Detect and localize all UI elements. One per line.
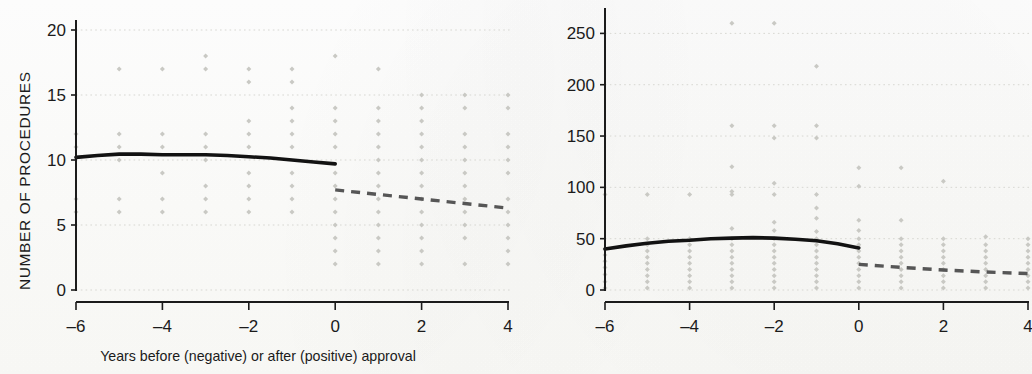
scatter-point bbox=[899, 248, 904, 253]
scatter-point bbox=[729, 248, 734, 253]
x-tick-label: 4 bbox=[1023, 317, 1032, 336]
scatter-point bbox=[983, 261, 988, 266]
scatter-point bbox=[899, 218, 904, 223]
scatter-point bbox=[462, 145, 467, 150]
scatter-point bbox=[772, 181, 777, 186]
scatter-point bbox=[203, 54, 208, 59]
x-tick-label: –4 bbox=[680, 317, 699, 336]
x-tick-label: –6 bbox=[596, 317, 615, 336]
y-tick-label: 150 bbox=[567, 127, 595, 146]
y-tick-label: 200 bbox=[567, 76, 595, 95]
x-tick-label: –4 bbox=[153, 317, 172, 336]
scatter-point bbox=[772, 136, 777, 141]
scatter-point bbox=[814, 285, 819, 290]
scatter-point bbox=[376, 210, 381, 215]
scatter-point bbox=[941, 279, 946, 284]
y-tick-label: 20 bbox=[47, 21, 66, 40]
scatter-point bbox=[687, 192, 692, 197]
scatter-point bbox=[645, 261, 650, 266]
scatter-point bbox=[419, 210, 424, 215]
scatter-point bbox=[772, 285, 777, 290]
scatter-point bbox=[645, 279, 650, 284]
scatter-point bbox=[290, 197, 295, 202]
scatter-point bbox=[419, 93, 424, 98]
plot-area-right: 050100150200250–6–4–2024 bbox=[516, 0, 1032, 340]
scatter-point bbox=[506, 249, 511, 254]
scatter-point bbox=[246, 132, 251, 137]
two-panel-figure: NUMBER OF PROCEDURES 05101520–6–4–2024 Y… bbox=[0, 0, 1032, 374]
x-tick-label: 0 bbox=[854, 317, 863, 336]
scatter-point bbox=[376, 262, 381, 267]
scatter-point bbox=[941, 242, 946, 247]
scatter-point bbox=[419, 132, 424, 137]
scatter-point bbox=[506, 145, 511, 150]
scatter-point bbox=[856, 228, 861, 233]
scatter-point bbox=[814, 216, 819, 221]
scatter-point bbox=[506, 262, 511, 267]
scatter-point bbox=[856, 165, 861, 170]
scatter-point bbox=[729, 226, 734, 231]
scatter-point bbox=[333, 249, 338, 254]
scatter-point bbox=[246, 80, 251, 85]
x-tick-label: 2 bbox=[417, 317, 426, 336]
scatter-point bbox=[856, 236, 861, 241]
scatter-point bbox=[899, 255, 904, 260]
scatter-point bbox=[117, 132, 122, 137]
scatter-point bbox=[645, 273, 650, 278]
scatter-point bbox=[772, 242, 777, 247]
scatter-point bbox=[419, 171, 424, 176]
scatter-point bbox=[506, 132, 511, 137]
scatter-point bbox=[462, 184, 467, 189]
scatter-point bbox=[814, 192, 819, 197]
y-tick-label: 5 bbox=[57, 216, 66, 235]
scatter-point bbox=[160, 197, 165, 202]
scatter-point bbox=[246, 184, 251, 189]
scatter-point bbox=[1026, 279, 1031, 284]
scatter-point bbox=[687, 248, 692, 253]
scatter-point bbox=[246, 119, 251, 124]
scatter-point bbox=[117, 158, 122, 163]
scatter-point bbox=[772, 123, 777, 128]
scatter-point bbox=[983, 255, 988, 260]
scatter-point bbox=[729, 21, 734, 26]
scatter-point bbox=[856, 255, 861, 260]
scatter-point bbox=[333, 184, 338, 189]
scatter-point bbox=[729, 255, 734, 260]
scatter-point bbox=[1026, 255, 1031, 260]
scatter-point bbox=[506, 158, 511, 163]
scatter-point bbox=[117, 145, 122, 150]
scatter-point bbox=[290, 210, 295, 215]
scatter-point bbox=[645, 192, 650, 197]
scatter-point bbox=[941, 248, 946, 253]
scatter-point bbox=[687, 242, 692, 247]
scatter-point bbox=[290, 132, 295, 137]
scatter-point bbox=[333, 54, 338, 59]
scatter-point bbox=[203, 67, 208, 72]
y-tick-label: 10 bbox=[47, 151, 66, 170]
scatter-point bbox=[814, 123, 819, 128]
scatter-point bbox=[376, 249, 381, 254]
x-tick-label: –2 bbox=[765, 317, 784, 336]
scatter-point bbox=[814, 248, 819, 253]
scatter-point bbox=[376, 197, 381, 202]
scatter-point bbox=[814, 136, 819, 141]
plot-area-left: 05101520–6–4–2024 bbox=[0, 0, 516, 340]
scatter-point bbox=[983, 234, 988, 239]
scatter-point bbox=[856, 218, 861, 223]
scatter-point bbox=[117, 67, 122, 72]
scatter-point bbox=[772, 267, 777, 272]
scatter-point bbox=[506, 106, 511, 111]
scatter-point bbox=[376, 119, 381, 124]
scatter-point bbox=[419, 223, 424, 228]
scatter-point bbox=[333, 145, 338, 150]
scatter-point bbox=[645, 248, 650, 253]
scatter-point bbox=[729, 273, 734, 278]
scatter-point bbox=[246, 210, 251, 215]
scatter-point bbox=[506, 236, 511, 241]
scatter-point bbox=[160, 210, 165, 215]
scatter-point bbox=[290, 119, 295, 124]
y-tick-label: 15 bbox=[47, 86, 66, 105]
scatter-point bbox=[203, 197, 208, 202]
scatter-point bbox=[729, 164, 734, 169]
scatter-point bbox=[203, 210, 208, 215]
